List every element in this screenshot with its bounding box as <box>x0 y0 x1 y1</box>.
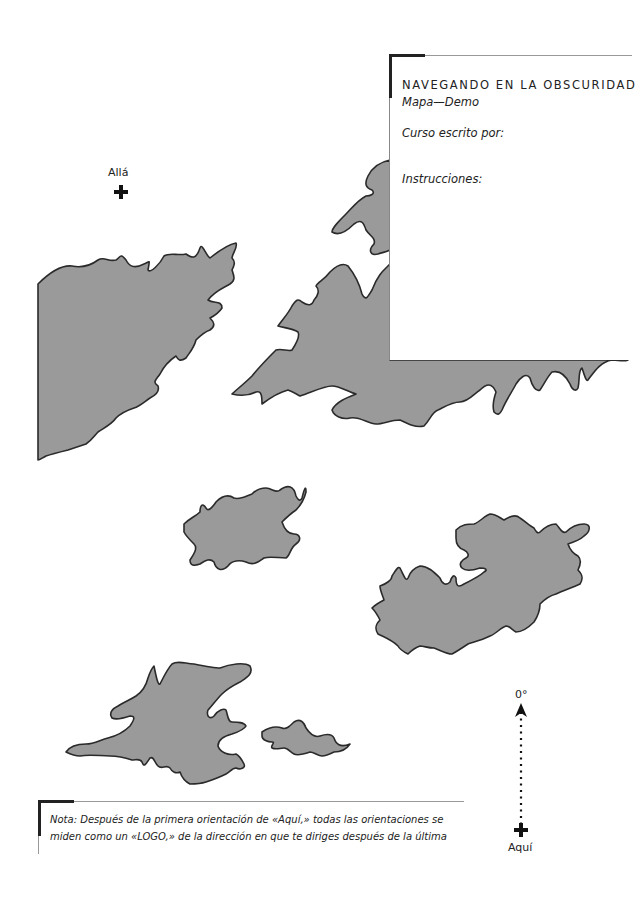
author-label: Curso escrito por: <box>402 126 504 140</box>
instructions-label: Instrucciones: <box>402 172 482 186</box>
note-corner-mark <box>38 800 74 803</box>
cross-icon <box>514 823 528 837</box>
card-corner-mark <box>389 54 425 57</box>
alla-label: Allá <box>108 166 128 179</box>
island-southwest <box>66 662 251 784</box>
card-corner-mark-vertical <box>389 54 392 98</box>
card-top-rule <box>390 55 632 56</box>
note-corner-mark-vertical <box>38 800 41 836</box>
island-central <box>184 487 306 570</box>
aqui-label: Aquí <box>508 841 532 854</box>
info-card: NAVEGANDO EN LA OBSCURIDAD Mapa—Demo Cur… <box>389 55 632 360</box>
compass-arrow <box>515 703 527 825</box>
card-subtitle: Mapa—Demo <box>402 95 479 109</box>
card-title: NAVEGANDO EN LA OBSCURIDAD <box>402 78 636 92</box>
island-west <box>38 243 236 460</box>
island-east <box>372 514 589 654</box>
island-islet <box>262 720 350 756</box>
cross-icon <box>114 185 128 199</box>
bearing-label: 0° <box>515 688 528 701</box>
note-text: Nota: Después de la primera orientación … <box>50 811 470 845</box>
note-box: Nota: Después de la primera orientación … <box>38 801 464 853</box>
note-top-rule <box>38 801 464 802</box>
note-side-rule <box>38 836 39 854</box>
arrow-up-icon <box>515 703 527 717</box>
